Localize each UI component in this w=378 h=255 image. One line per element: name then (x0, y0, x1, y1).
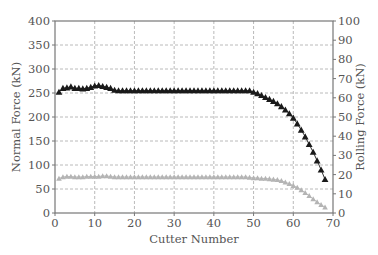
y-right-tick-label: 60 (338, 91, 353, 105)
triangle-marker-icon (306, 141, 313, 147)
triangle-marker-icon (310, 149, 317, 155)
y-right-axis-title: Rolling Force (kN) (353, 63, 367, 171)
y-right-tick-label: 90 (338, 33, 353, 47)
y-left-axis-title: Normal Force (kN) (9, 62, 23, 172)
series-rolling-force (56, 173, 328, 209)
y-right-tick-label: 80 (338, 52, 353, 66)
x-tick-label: 10 (87, 216, 102, 230)
y-left-tick-label: 350 (28, 38, 50, 52)
y-left-tick-label: 150 (28, 134, 50, 148)
triangle-marker-icon (298, 127, 305, 133)
y-right-tick-label: 20 (338, 168, 353, 182)
x-tick-label: 20 (127, 216, 142, 230)
x-tick-label: 40 (207, 216, 222, 230)
triangle-marker-icon (294, 120, 301, 126)
y-left-tick-label: 200 (28, 110, 50, 124)
triangle-marker-icon (318, 166, 325, 172)
x-tick-label: 30 (167, 216, 182, 230)
y-left-tick-label: 300 (28, 62, 50, 76)
y-right-tick-label: 30 (338, 148, 353, 162)
y-left-tick-label: 100 (28, 158, 50, 172)
x-tick-label: 50 (246, 216, 261, 230)
x-tick-label: 60 (286, 216, 301, 230)
triangle-marker-icon (302, 133, 309, 139)
y-right-tick-label: 70 (338, 72, 353, 86)
y-left-tick-label: 50 (35, 182, 50, 196)
y-right-tick-label: 0 (338, 206, 345, 220)
triangle-marker-icon (322, 176, 329, 182)
y-left-tick-label: 0 (43, 206, 50, 220)
series-normal-force (56, 82, 329, 182)
y-left-tick-label: 250 (28, 86, 50, 100)
triangle-marker-icon (314, 157, 321, 163)
y-left-tick-label: 400 (28, 14, 50, 28)
x-axis-title: Cutter Number (149, 232, 239, 246)
y-right-tick-label: 50 (338, 110, 353, 124)
y-right-tick-label: 40 (338, 129, 353, 143)
y-right-tick-label: 100 (338, 14, 360, 28)
plot-series (56, 82, 329, 210)
y-right-tick-label: 10 (338, 187, 353, 201)
dual-axis-line-chart: 0102030405060700501001502002503003504000… (0, 0, 378, 255)
x-tick-label: 0 (51, 216, 58, 230)
